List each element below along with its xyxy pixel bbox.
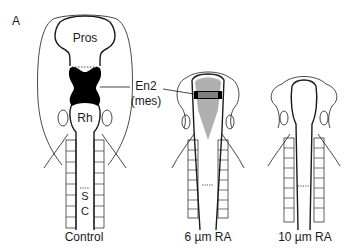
label-en2: En2: [135, 79, 157, 93]
caption-control: Control: [65, 230, 104, 244]
en2-leader-6um: [163, 89, 194, 94]
en2-domain-control: [69, 67, 101, 106]
caption-6um-ra: 6 µm RA: [185, 230, 232, 244]
label-rh: Rh: [77, 111, 92, 125]
label-sc-s: S: [81, 190, 88, 202]
panel-label: A: [12, 14, 20, 28]
label-pros: Pros: [73, 31, 98, 45]
label-sc-c: C: [81, 205, 89, 217]
label-mes: (mes): [131, 94, 162, 108]
ra10-embryo: [268, 77, 340, 231]
caption-10um-ra: 10 µm RA: [278, 230, 332, 244]
reduced-forebrain-6um: [195, 78, 221, 141]
embryo-diagram: A: [0, 0, 356, 251]
